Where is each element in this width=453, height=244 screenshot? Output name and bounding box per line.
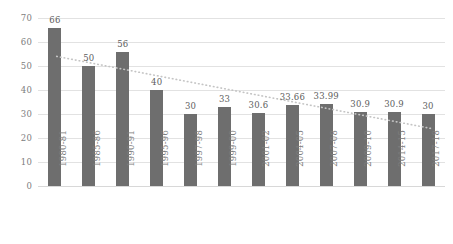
x-axis-tick-label: 2004-05: [296, 130, 305, 190]
bar-value-label: 30.6: [238, 101, 278, 110]
y-axis-tick-label: 60: [8, 38, 32, 47]
bar-value-label: 66: [35, 16, 75, 25]
y-axis-tick-label: 20: [8, 134, 32, 143]
x-axis-tick-label: 1985-86: [93, 130, 102, 190]
x-axis-tick-label: 2001-02: [262, 130, 271, 190]
bar-value-label: 50: [69, 54, 109, 63]
gridline: [38, 90, 445, 91]
x-axis-tick-label: 2009-10: [364, 130, 373, 190]
x-axis-tick-label: 1980-81: [59, 130, 68, 190]
gridline: [38, 18, 445, 19]
y-axis-tick-label: 70: [8, 14, 32, 23]
bar-value-label: 30: [408, 102, 448, 111]
y-axis-tick-label: 30: [8, 110, 32, 119]
x-axis-tick-label: 1995-96: [161, 130, 170, 190]
x-axis-tick-label: 2007-08: [330, 130, 339, 190]
x-axis-tick-label: 1999-00: [229, 130, 238, 190]
bar-value-label: 40: [137, 78, 177, 87]
x-axis-tick-label: 1997-98: [195, 130, 204, 190]
gridline: [38, 114, 445, 115]
x-axis-tick-label: 2014-15: [398, 130, 407, 190]
x-axis-tick-label: 2017-18: [432, 130, 441, 190]
gridline: [38, 42, 445, 43]
y-axis-tick-label: 50: [8, 62, 32, 71]
bar-value-label: 56: [103, 40, 143, 49]
gridline: [38, 66, 445, 67]
x-axis-tick-label: 1990-91: [127, 130, 136, 190]
y-axis-tick-label: 0: [8, 182, 32, 191]
y-axis-tick-label: 10: [8, 158, 32, 167]
bar-chart: 010203040506070661980-81501985-86561990-…: [0, 0, 453, 244]
y-axis-tick-label: 40: [8, 86, 32, 95]
